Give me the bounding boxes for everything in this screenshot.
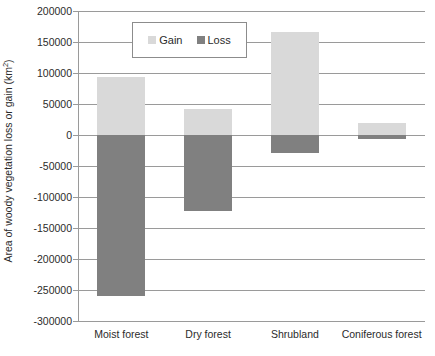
y-axis-tick-label: 0 [16, 130, 72, 140]
y-axis-tick-mark [73, 11, 78, 12]
y-axis-tick-label: 150000 [16, 37, 72, 47]
bar-gain [184, 109, 232, 135]
legend-label-loss: Loss [208, 35, 231, 46]
y-axis-tick-mark [73, 259, 78, 260]
bar-loss [184, 135, 232, 211]
y-axis-tick-label: -150000 [16, 223, 72, 233]
y-axis-tick-label: -300000 [16, 316, 72, 326]
x-axis-label: Shrubland [252, 327, 339, 341]
y-axis-tick-label: -100000 [16, 192, 72, 202]
legend-entry-gain: Gain [148, 35, 182, 46]
y-axis-tick-mark [73, 228, 78, 229]
chart-legend: Gain Loss [132, 22, 247, 58]
x-axis-label: Moist forest [78, 327, 165, 341]
bar-gain [271, 32, 319, 135]
x-axis-category-labels: Moist forestDry forestShrublandConiferou… [78, 327, 425, 347]
y-axis-tick-labels: 200000150000100000500000-50000-100000-15… [12, 0, 72, 356]
y-axis-title-superscript: 2 [1, 63, 10, 67]
bar-loss [358, 135, 406, 139]
legend-entry-loss: Loss [197, 35, 231, 46]
y-axis-tick-label: 100000 [16, 68, 72, 78]
y-axis-tick-label: 50000 [16, 99, 72, 109]
y-axis-tick-label: -250000 [16, 285, 72, 295]
bar-loss [271, 135, 319, 153]
bar-gain [97, 77, 145, 135]
bar-loss [97, 135, 145, 296]
y-axis-tick-label: 200000 [16, 6, 72, 16]
y-axis-tick-mark [73, 321, 78, 322]
bar-chart: Area of woody vegetation loss or gain (k… [0, 0, 435, 356]
legend-swatch-loss-icon [197, 36, 205, 44]
y-axis-tick-mark [73, 73, 78, 74]
x-axis-label: Dry forest [165, 327, 252, 341]
y-axis-tick-mark [73, 197, 78, 198]
bar-group [338, 11, 425, 321]
x-axis-label: Coniferous forest [338, 327, 425, 341]
bar-group [252, 11, 339, 321]
y-axis-tick-mark [73, 42, 78, 43]
gridline [78, 321, 425, 322]
y-axis-tick-label: -200000 [16, 254, 72, 264]
bar-gain [358, 123, 406, 135]
y-axis-tick-mark [73, 104, 78, 105]
y-axis-tick-mark [73, 166, 78, 167]
legend-label-gain: Gain [159, 35, 182, 46]
y-axis-tick-mark [73, 290, 78, 291]
y-axis-tick-label: -50000 [16, 161, 72, 171]
plot-area [78, 11, 425, 321]
legend-swatch-gain-icon [148, 36, 156, 44]
y-axis-tick-mark [73, 135, 78, 136]
